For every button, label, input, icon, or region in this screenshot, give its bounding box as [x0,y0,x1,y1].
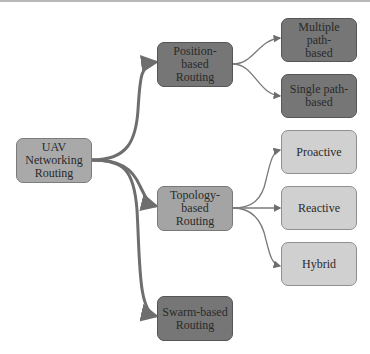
node-single-path-based: Single path- based [281,74,357,118]
node-reactive: Reactive [281,186,357,230]
node-label: Hybrid [302,258,336,271]
edge-topology-proactive [233,150,280,208]
node-proactive: Proactive [281,130,357,174]
node-position-based-routing: Position- based Routing [157,42,233,87]
node-uav-networking-routing: UAV Networking Routing [16,138,92,183]
edge-uav-position [92,62,156,160]
edge-position-single [233,64,280,96]
node-label: Position- based Routing [161,45,229,84]
node-hybrid: Hybrid [281,242,357,286]
node-label: UAV Networking Routing [25,141,82,180]
node-label: Swarm-based Routing [162,306,227,332]
node-label: Single path- based [290,83,348,109]
node-label: Reactive [298,202,340,215]
node-swarm-based-routing: Swarm-based Routing [157,296,233,341]
node-multiple-path-based: Multiple path- based [281,18,357,62]
edge-topology-hybrid [233,208,280,266]
edge-uav-swarm [92,160,156,316]
node-topology-based-routing: Topology- based Routing [157,186,233,231]
node-label: Proactive [296,146,341,159]
node-label: Topology- based Routing [161,189,229,228]
node-label: Multiple path- based [285,21,353,60]
edge-position-multiple [233,38,280,64]
